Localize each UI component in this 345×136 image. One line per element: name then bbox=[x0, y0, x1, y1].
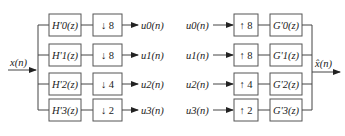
downsampler-label: ↓ 2 bbox=[101, 105, 114, 116]
analysis-filter-label: H'0(z) bbox=[51, 20, 79, 32]
filter-bank-diagram: x(n) H'0(z) ↓ 8 u0(n) H'1(z) ↓ 8 u1(n) bbox=[0, 0, 345, 136]
upsampler-label: ↑ 4 bbox=[239, 79, 253, 90]
upsampler-label: ↑ 2 bbox=[239, 105, 252, 116]
subband-output-label: u2(n) bbox=[141, 79, 164, 91]
synthesis-branch-0: u0(n) ↑ 8 G'0(z) bbox=[186, 14, 312, 36]
output-label: x̂(n) bbox=[314, 58, 332, 70]
analysis-bank: x(n) H'0(z) ↓ 8 u0(n) H'1(z) ↓ 8 u1(n) bbox=[8, 14, 164, 121]
synthesis-filter-label: G'2(z) bbox=[273, 79, 300, 91]
analysis-branch-3: H'3(z) ↓ 2 u3(n) bbox=[38, 99, 164, 121]
synthesis-branch-1: u1(n) ↑ 8 G'1(z) bbox=[186, 44, 312, 66]
subband-output-label: u0(n) bbox=[141, 20, 164, 32]
downsampler-label: ↓ 8 bbox=[101, 50, 114, 61]
downsampler-label: ↓ 8 bbox=[101, 20, 114, 31]
analysis-branch-2: H'2(z) ↓ 4 u2(n) bbox=[38, 73, 164, 95]
analysis-branch-1: H'1(z) ↓ 8 u1(n) bbox=[38, 44, 164, 66]
analysis-filter-label: H'3(z) bbox=[51, 105, 79, 117]
subband-input-label: u2(n) bbox=[186, 79, 209, 91]
synthesis-branch-3: u3(n) ↑ 2 G'3(z) bbox=[186, 99, 312, 121]
subband-input-label: u0(n) bbox=[186, 20, 209, 32]
synthesis-filter-label: G'1(z) bbox=[273, 50, 300, 62]
subband-input-label: u3(n) bbox=[186, 105, 209, 117]
synthesis-branch-2: u2(n) ↑ 4 G'2(z) bbox=[186, 73, 312, 95]
analysis-filter-label: H'2(z) bbox=[51, 79, 79, 91]
subband-output-label: u3(n) bbox=[141, 105, 164, 117]
subband-output-label: u1(n) bbox=[141, 50, 164, 62]
upsampler-label: ↑ 8 bbox=[239, 20, 252, 31]
analysis-branch-0: H'0(z) ↓ 8 u0(n) bbox=[38, 14, 164, 36]
synthesis-filter-label: G'3(z) bbox=[273, 105, 300, 117]
input-label: x(n) bbox=[9, 57, 27, 69]
downsampler-label: ↓ 4 bbox=[101, 79, 115, 90]
analysis-filter-label: H'1(z) bbox=[51, 50, 79, 62]
subband-input-label: u1(n) bbox=[186, 50, 209, 62]
synthesis-filter-label: G'0(z) bbox=[273, 20, 300, 32]
upsampler-label: ↑ 8 bbox=[239, 50, 252, 61]
synthesis-bank: u0(n) ↑ 8 G'0(z) u1(n) ↑ 8 G'1(z) u2(n) … bbox=[186, 14, 340, 121]
